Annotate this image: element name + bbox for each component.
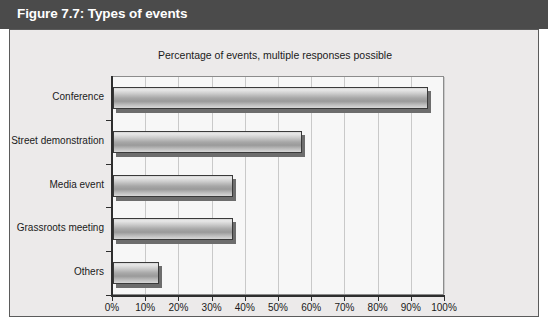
x-axis-tick — [311, 295, 312, 301]
bar-media-event — [113, 175, 233, 197]
bar-row — [113, 218, 443, 240]
y-axis-tick — [106, 251, 112, 252]
bar-row — [113, 175, 443, 197]
x-axis-tick — [344, 295, 345, 301]
y-axis-line — [111, 76, 113, 295]
y-axis-label: Street demonstration — [0, 135, 104, 146]
bar-row — [113, 262, 443, 284]
plot-area — [112, 76, 444, 295]
figure-caption: Figure 7.7: Types of events — [17, 6, 187, 21]
chart-frame: Percentage of events, multiple responses… — [9, 29, 539, 317]
x-axis-tick — [411, 295, 412, 301]
figure-title-bar: Figure 7.7: Types of events — [0, 0, 548, 29]
bar-conference — [113, 87, 428, 109]
gridline — [444, 77, 445, 294]
bar-row — [113, 131, 443, 153]
x-axis-tick — [212, 295, 213, 301]
x-axis-tick — [112, 295, 113, 301]
bar-others — [113, 262, 159, 284]
bar-grassroots-meeting — [113, 218, 233, 240]
bars-layer — [113, 77, 443, 294]
x-axis-tick — [245, 295, 246, 301]
x-axis-tick — [378, 295, 379, 301]
bar-row — [113, 87, 443, 109]
y-axis-tick — [106, 207, 112, 208]
x-axis-tick — [444, 295, 445, 301]
x-axis-label: 100% — [422, 302, 466, 313]
x-axis-tick — [178, 295, 179, 301]
x-axis-tick — [145, 295, 146, 301]
y-axis-label: Conference — [0, 91, 104, 102]
y-axis-label: Others — [0, 266, 104, 277]
chart-title: Percentage of events, multiple responses… — [10, 49, 540, 61]
x-axis-tick — [278, 295, 279, 301]
y-axis-tick — [106, 120, 112, 121]
y-axis-label: Grassroots meeting — [0, 222, 104, 233]
figure-body: Percentage of events, multiple responses… — [0, 29, 548, 326]
figure-container: Figure 7.7: Types of events Percentage o… — [0, 0, 548, 326]
bar-street-demonstration — [113, 131, 302, 153]
y-axis-tick — [106, 164, 112, 165]
y-axis-label: Media event — [0, 179, 104, 190]
